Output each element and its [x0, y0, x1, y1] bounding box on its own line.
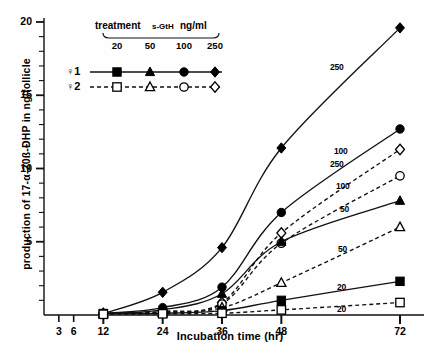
curve-tag-4-50: 50	[340, 204, 349, 214]
legend-marker-♀1-250	[211, 67, 220, 77]
axes	[36, 18, 424, 324]
point-250-72hr	[396, 144, 405, 154]
point-100-72hr	[396, 125, 404, 133]
legend-brace	[103, 33, 219, 38]
x-tick-24: 24	[149, 325, 177, 337]
curve-tag-3-100: 100	[336, 181, 350, 191]
curve-tag-2-250: 250	[330, 159, 344, 169]
point-50-48hr	[277, 278, 286, 287]
legend-row-name-2: ♀2	[66, 80, 80, 92]
x-tick-48: 48	[267, 325, 295, 337]
point-250-24hr	[158, 287, 167, 297]
point-20-72hr	[396, 277, 404, 285]
legend-dose-250: 250	[199, 40, 231, 51]
point-20-36hr	[218, 309, 226, 317]
legend-marker-♀1-50	[145, 67, 154, 76]
legend-header-treatment: treatment	[95, 20, 141, 31]
legend-marker-♀1-100	[180, 68, 188, 76]
y-tick-15: 15	[8, 88, 32, 100]
legend-header-hormone: s-GtH	[152, 22, 174, 31]
curve-tag-0-250: 250	[330, 62, 344, 72]
curve-tag-5-50: 50	[338, 244, 347, 254]
legend-dose-50: 50	[134, 40, 166, 51]
point-20-72hr	[396, 298, 404, 306]
legend-marker-♀2-100	[180, 83, 188, 91]
curve-tag-7-20: 20	[337, 304, 346, 314]
legend-dose-20: 20	[101, 40, 133, 51]
point-20-48hr	[277, 306, 285, 314]
legend-marker-♀2-20	[113, 83, 121, 91]
curve-♀1-100	[103, 129, 400, 314]
x-tick-72: 72	[386, 325, 414, 337]
y-tick-10: 10	[8, 162, 32, 174]
point-50-72hr	[395, 222, 404, 231]
x-tick-36: 36	[208, 325, 236, 337]
legend-header-units: ng/ml	[180, 20, 207, 31]
curve-♀2-50	[103, 227, 400, 313]
legend-dose-100: 100	[168, 40, 200, 51]
x-tick-12: 12	[89, 325, 117, 337]
legend-marker-♀2-50	[145, 82, 154, 91]
legend-row-name-1: ♀1	[66, 65, 80, 77]
point-20-12hr	[99, 310, 107, 318]
curve-♀1-20	[103, 281, 400, 313]
curve-tag-1-100: 100	[334, 146, 348, 156]
point-20-48hr	[277, 296, 285, 304]
point-50-72hr	[395, 196, 404, 205]
curve-tag-6-20: 20	[337, 282, 346, 292]
y-tick-20: 20	[8, 15, 32, 27]
x-tick-6: 6	[60, 325, 88, 337]
point-100-72hr	[396, 172, 404, 180]
y-tick-5: 5	[8, 235, 32, 247]
point-100-48hr	[277, 208, 285, 216]
chart-canvas	[0, 0, 429, 347]
point-20-24hr	[158, 310, 166, 318]
legend-marker-♀1-20	[113, 68, 121, 76]
legend-marker-♀2-250	[211, 82, 220, 92]
figure-panel: production of 17-α-20ß-ÐHP in ng/follicl…	[0, 0, 429, 347]
